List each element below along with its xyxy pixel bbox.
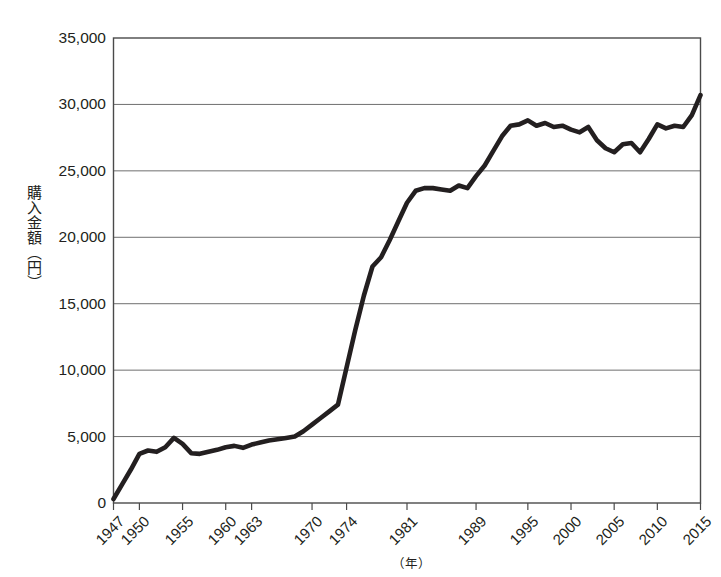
gridlines	[114, 104, 701, 436]
axes-frame	[114, 38, 701, 503]
y-tick-label: 0	[34, 494, 106, 512]
y-tick-label: 25,000	[34, 162, 106, 180]
x-axis-unit-label: （年）	[392, 553, 431, 572]
y-tick-label: 5,000	[34, 428, 106, 446]
x-axis-ticks	[114, 503, 701, 510]
plot-area	[0, 0, 721, 577]
plot-frame	[114, 38, 701, 503]
y-tick-label: 35,000	[34, 29, 106, 47]
y-tick-label: 15,000	[34, 295, 106, 313]
y-tick-label: 30,000	[34, 95, 106, 113]
data-series	[114, 95, 701, 499]
chart-figure: 購入金額（円） 05,00010,00015,00020,00025,00030…	[0, 0, 721, 577]
y-tick-label: 10,000	[34, 361, 106, 379]
series-line-0	[114, 95, 701, 499]
y-tick-label: 20,000	[34, 228, 106, 246]
